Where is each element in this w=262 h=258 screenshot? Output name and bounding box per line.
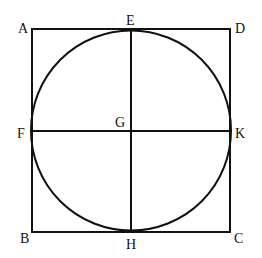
label-f: F [17, 126, 25, 141]
label-h: H [126, 237, 136, 252]
label-d: D [235, 21, 245, 36]
label-b: B [20, 231, 29, 246]
label-e: E [126, 13, 135, 28]
label-c: C [234, 231, 243, 246]
label-g: G [115, 115, 125, 130]
label-k: K [235, 126, 245, 141]
square-inscribed-circle-diagram: A E D F G K B H C [0, 0, 262, 258]
label-a: A [18, 21, 29, 36]
